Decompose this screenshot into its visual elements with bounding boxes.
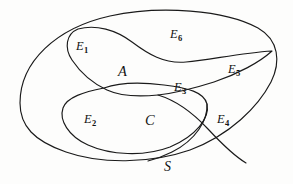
set-c-right-tail-curve	[148, 104, 207, 161]
label-event-base: E	[228, 62, 236, 76]
label-event-base: E	[174, 80, 182, 94]
label-event-base: E	[76, 39, 84, 53]
venn-diagram-canvas	[0, 0, 293, 184]
label-universe-s: S	[164, 160, 171, 174]
label-event-base: E	[170, 27, 178, 41]
label-event-base: E	[84, 112, 92, 126]
label-set-c: C	[145, 113, 155, 128]
label-event-3: E3	[174, 81, 186, 94]
label-event-2: E2	[84, 113, 96, 126]
set-diagram-figure: S A C E1E2E3E4E5E6	[0, 0, 293, 184]
label-event-subscript: 3	[182, 86, 186, 96]
label-event-subscript: 6	[178, 33, 182, 43]
label-event-1: E1	[76, 40, 88, 53]
label-event-4: E4	[217, 113, 229, 126]
label-event-subscript: 2	[92, 118, 96, 128]
label-set-a: A	[118, 64, 127, 79]
label-event-5: E5	[228, 63, 240, 76]
label-event-6: E6	[170, 28, 182, 41]
universe-boundary-curve	[20, 10, 277, 161]
label-event-subscript: 1	[84, 45, 88, 55]
label-event-base: E	[217, 112, 225, 126]
label-event-subscript: 5	[236, 68, 240, 78]
label-event-subscript: 4	[225, 118, 229, 128]
